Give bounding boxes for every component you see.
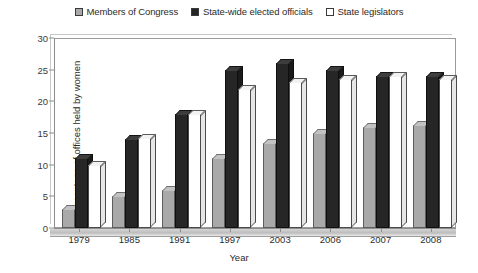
bar[interactable] [326, 70, 339, 228]
x-tick-label: 1997 [205, 234, 255, 245]
black-swatch-icon [191, 8, 199, 16]
bar-group-bars [255, 38, 307, 228]
x-tick-mark [79, 228, 80, 232]
bar[interactable] [263, 143, 276, 229]
bar[interactable] [363, 127, 376, 228]
x-tick-label: 1991 [155, 234, 205, 245]
bar[interactable] [289, 82, 302, 228]
x-tick-label: 2007 [356, 234, 406, 245]
bar-group: 2003 [255, 38, 305, 228]
bar-slot [175, 114, 188, 228]
bar[interactable] [138, 138, 151, 228]
x-tick-mark [280, 228, 281, 232]
bar-slot [289, 82, 302, 228]
bar-group: 1991 [155, 38, 205, 228]
legend-label: State legislators [338, 6, 404, 17]
x-tick-label: 1979 [54, 234, 104, 245]
plot-wall-depth-top [50, 34, 452, 35]
bar[interactable] [413, 125, 426, 228]
legend-label: State-wide elected officials [203, 6, 313, 17]
bar[interactable] [75, 158, 88, 228]
legend-label: Members of Congress [87, 6, 179, 17]
bar-group-bars [54, 38, 106, 228]
bar-slot [313, 133, 326, 228]
bar-slot [88, 165, 101, 228]
bar-slot [138, 138, 151, 228]
bar-slot [276, 63, 289, 228]
legend-item-state-wide-elected-officials: State-wide elected officials [191, 6, 313, 17]
bar-slot [326, 70, 339, 228]
bar[interactable] [212, 158, 225, 228]
bar-group: 1985 [104, 38, 154, 228]
bar[interactable] [389, 76, 402, 228]
bar[interactable] [225, 70, 238, 228]
x-tick-mark [230, 228, 231, 232]
x-tick-mark [381, 228, 382, 232]
bar[interactable] [426, 76, 439, 228]
bar-group: 1979 [54, 38, 104, 228]
bar-slot [188, 114, 201, 228]
bar-chart: Members of Congress State-wide elected o… [0, 0, 478, 273]
x-tick-mark [180, 228, 181, 232]
bar[interactable] [188, 114, 201, 228]
bar-group-bars [104, 38, 156, 228]
bar[interactable] [175, 114, 188, 228]
bar-slot [238, 89, 251, 228]
bar-slot [225, 70, 238, 228]
bar[interactable] [112, 196, 125, 228]
bar[interactable] [339, 79, 352, 228]
bar-group-bars [205, 38, 257, 228]
bar-group-bars [406, 38, 458, 228]
bar-slot [212, 158, 225, 228]
gray-swatch-icon [75, 8, 83, 16]
bar-slot [263, 143, 276, 229]
x-tick-label: 1985 [104, 234, 154, 245]
x-tick-label: 2003 [255, 234, 305, 245]
white-swatch-icon [326, 8, 334, 16]
legend-item-state-legislators: State legislators [326, 6, 404, 17]
legend-item-members-of-congress: Members of Congress [75, 6, 179, 17]
bar[interactable] [376, 76, 389, 228]
bar-group: 1997 [205, 38, 255, 228]
bar[interactable] [125, 139, 138, 228]
bar-slot [376, 76, 389, 228]
x-tick-mark [330, 228, 331, 232]
bar[interactable] [276, 63, 289, 228]
bar-slot [363, 127, 376, 228]
bar[interactable] [88, 165, 101, 228]
x-tick-mark [129, 228, 130, 232]
bar-group-bars [155, 38, 207, 228]
bar-group: 2006 [305, 38, 355, 228]
bar-slot [75, 158, 88, 228]
bar-group-bars [305, 38, 357, 228]
bar-slot [426, 76, 439, 228]
bar[interactable] [162, 190, 175, 228]
bar-slot [413, 125, 426, 228]
bar-group: 2007 [356, 38, 406, 228]
x-tick-label: 2008 [406, 234, 456, 245]
bar[interactable] [439, 79, 452, 228]
bar-slot [125, 139, 138, 228]
bar-slot [162, 190, 175, 228]
bar[interactable] [238, 89, 251, 228]
bar-slot [62, 209, 75, 228]
bar-slot [439, 79, 452, 228]
bar-group-bars [356, 38, 408, 228]
bar-slot [339, 79, 352, 228]
x-tick-mark [431, 228, 432, 232]
bar-groups: 19791985199119972003200620072008 [54, 38, 456, 228]
bar-group: 2008 [406, 38, 456, 228]
bar[interactable] [313, 133, 326, 228]
x-tick-label: 2006 [305, 234, 355, 245]
chart-legend: Members of Congress State-wide elected o… [0, 6, 478, 17]
x-axis-title: Year [0, 252, 478, 263]
bar-slot [112, 196, 125, 228]
bar-slot [389, 76, 402, 228]
bar[interactable] [62, 209, 75, 228]
